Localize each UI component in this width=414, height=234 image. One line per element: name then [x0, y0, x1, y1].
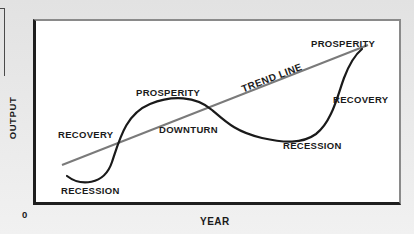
phase-label-recession-2: RECESSION — [283, 141, 342, 151]
page-edge-rule-cap — [0, 8, 5, 9]
origin-label: 0 — [22, 209, 27, 220]
phase-label-prosperity-2: PROSPERITY — [311, 39, 375, 49]
business-cycle-diagram: OUTPUT YEAR 0 TREND LINE RECESSION RECOV… — [0, 0, 414, 234]
phase-label-downturn: DOWNTURN — [159, 125, 218, 135]
phase-label-recovery-2: RECOVERY — [333, 95, 388, 105]
phase-label-recovery-1: RECOVERY — [58, 130, 113, 140]
y-axis-label: OUTPUT — [7, 97, 18, 140]
page-edge-rule — [0, 8, 5, 76]
x-axis-label: YEAR — [200, 216, 230, 227]
phase-label-prosperity-1: PROSPERITY — [136, 88, 200, 98]
phase-label-recession-1: RECESSION — [61, 186, 120, 196]
